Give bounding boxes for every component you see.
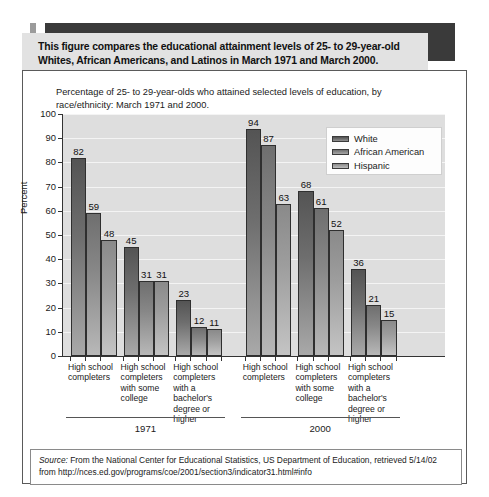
bar-value-label: 21 (363, 293, 384, 304)
x-tick-mark (190, 356, 191, 361)
group-label-1971: 1971 (66, 423, 225, 434)
bar[interactable] (329, 230, 344, 356)
chart-legend: White African American Hispanic (326, 127, 442, 175)
x-tick-mark (396, 356, 397, 361)
bar-value-label: 23 (173, 288, 194, 299)
callout-text: This figure compares the educational att… (38, 40, 414, 68)
x-tick-mark (70, 356, 71, 361)
x-tick-mark (297, 356, 298, 361)
x-tick-mark (123, 356, 124, 361)
x-tick-mark (100, 356, 101, 361)
x-category-label: High school completers (68, 362, 120, 383)
source-body: From the National Center for Educational… (39, 455, 437, 477)
bar[interactable] (207, 329, 222, 356)
x-category-label: High school completers with some college (295, 362, 347, 404)
bar[interactable] (381, 320, 396, 356)
x-tick-mark (153, 356, 154, 361)
group-rule (241, 417, 400, 418)
source-note: Source: From the National Center for Edu… (30, 449, 462, 485)
bar-value-label: 59 (83, 201, 104, 212)
y-tick-label: 40 (16, 253, 56, 264)
bar-value-label: 87 (258, 133, 279, 144)
bar-value-label: 11 (204, 317, 225, 328)
x-tick-mark (221, 356, 222, 361)
x-tick-mark (206, 356, 207, 361)
bar[interactable] (191, 327, 206, 356)
bar[interactable] (298, 191, 313, 356)
y-tick-label: 50 (16, 229, 56, 240)
bar-value-label: 45 (121, 235, 142, 246)
y-tick-label: 90 (16, 132, 56, 143)
bar[interactable] (71, 158, 86, 356)
y-tick-label: 20 (16, 302, 56, 313)
bar[interactable] (314, 208, 329, 356)
gridline (63, 114, 445, 115)
x-category-label: High school completers with a bachelor's… (173, 362, 225, 424)
legend-swatch-white-icon (332, 136, 349, 142)
x-tick-mark (380, 356, 381, 361)
bar[interactable] (139, 281, 154, 356)
bar-value-label: 61 (311, 196, 332, 207)
bar-value-label: 63 (273, 192, 294, 203)
source-label: Source: (39, 455, 68, 465)
x-tick-mark (85, 356, 86, 361)
legend-item-hispanic[interactable]: Hispanic (332, 159, 436, 173)
figure-root: This figure compares the educational att… (0, 0, 489, 497)
bar[interactable] (176, 300, 191, 356)
x-category-label: High school completers with some college (121, 362, 173, 404)
legend-swatch-hispanic-icon (332, 163, 349, 169)
x-tick-mark (313, 356, 314, 361)
bar-value-label: 68 (295, 179, 316, 190)
bar[interactable] (276, 204, 291, 356)
bar[interactable] (101, 240, 116, 356)
group-label-2000: 2000 (241, 423, 400, 434)
y-tick-label: 100 (16, 108, 56, 119)
bar-value-label: 94 (243, 117, 264, 128)
y-tick-label: 10 (16, 326, 56, 337)
x-category-label: High school completers (243, 362, 295, 383)
x-category-label: High school completers with a bachelor's… (348, 362, 400, 424)
x-tick-mark (365, 356, 366, 361)
y-tick-label: 60 (16, 205, 56, 216)
y-tick-label: 30 (16, 277, 56, 288)
legend-label-hispanic: Hispanic (354, 161, 390, 171)
x-tick-mark (275, 356, 276, 361)
x-tick-mark (138, 356, 139, 361)
bar-value-label: 31 (151, 269, 172, 280)
bar[interactable] (351, 269, 366, 356)
legend-item-african-american[interactable]: African American (332, 146, 436, 160)
legend-label-african-american: African American (354, 147, 424, 157)
chart-title: Percentage of 25- to 29-year-olds who at… (56, 86, 386, 112)
y-tick-label: 80 (16, 156, 56, 167)
legend-swatch-african-american-icon (332, 149, 349, 155)
bar[interactable] (246, 129, 261, 356)
bar[interactable] (124, 247, 139, 356)
bar-value-label: 82 (68, 146, 89, 157)
x-tick-mark (350, 356, 351, 361)
bar-value-label: 52 (326, 218, 347, 229)
group-rule (66, 417, 225, 418)
bar-value-label: 15 (378, 308, 399, 319)
bar[interactable] (261, 145, 276, 356)
x-tick-mark (260, 356, 261, 361)
y-tick-label: 70 (16, 181, 56, 192)
bar[interactable] (154, 281, 169, 356)
x-tick-mark (328, 356, 329, 361)
bar-value-label: 36 (348, 257, 369, 268)
x-tick-mark (175, 356, 176, 361)
x-tick-mark (245, 356, 246, 361)
legend-label-white: White (354, 134, 378, 144)
legend-item-white[interactable]: White (332, 132, 436, 146)
y-tick-label: 0 (16, 350, 56, 361)
bar-value-label: 48 (98, 228, 119, 239)
